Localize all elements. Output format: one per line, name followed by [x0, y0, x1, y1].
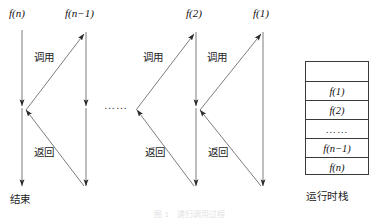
runtime-stack-caption: 运行时栈 [306, 191, 348, 202]
call-label-2: 调用 [143, 52, 163, 63]
end-label: 结束 [10, 194, 30, 205]
timeline-label-fn: f(n) [9, 8, 25, 19]
stack-cell-f1: f(1) [306, 81, 368, 100]
recursion-call-figure: f(n) f(n−1) f(2) f(1) 调用 调用 调用 返回 返回 返回 … [0, 0, 379, 219]
stack-cell-empty [306, 62, 368, 81]
call-arrow-mid-to-f2 [136, 34, 194, 110]
return-label-3: 返回 [208, 147, 228, 158]
timeline-label-f1: f(1) [253, 8, 269, 19]
stack-cell-fn-1: f(n−1) [306, 138, 368, 157]
call-arrow-fn-to-fn1 [26, 34, 84, 110]
timeline-label-f2: f(2) [186, 8, 202, 19]
runtime-stack-box: f(1) f(2) …… f(n−1) f(n) [305, 61, 369, 175]
call-arrow-f2-to-f1 [200, 34, 261, 110]
call-label-1: 调用 [34, 52, 54, 63]
return-label-1: 返回 [34, 147, 54, 158]
timeline-label-fn-1: f(n−1) [65, 8, 94, 19]
call-label-3: 调用 [207, 52, 227, 63]
stack-cell-ellipsis: …… [306, 119, 368, 138]
call-arrows [26, 34, 261, 110]
stack-cell-fn: f(n) [306, 157, 368, 176]
stack-cell-f2: f(2) [306, 100, 368, 119]
figure-caption: 图 1 递归调用过程 [0, 208, 379, 219]
middle-ellipsis: …… [104, 100, 128, 111]
return-label-2: 返回 [145, 147, 165, 158]
